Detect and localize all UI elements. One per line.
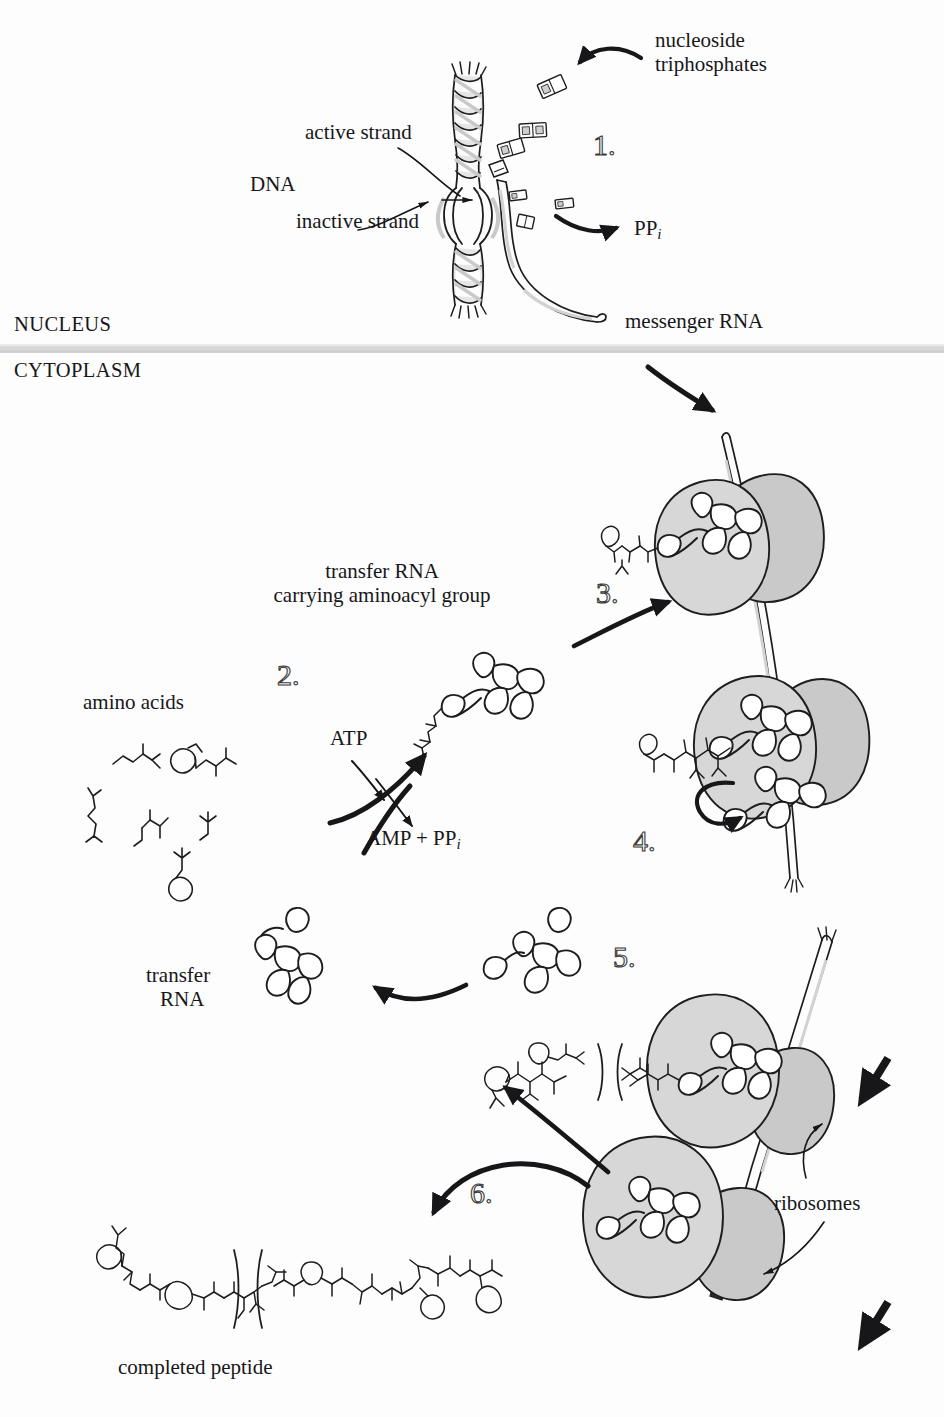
dna-double-helix bbox=[438, 62, 498, 318]
free-trna-molecule bbox=[255, 908, 322, 1004]
departing-trna-molecule bbox=[484, 908, 581, 993]
arrow-ribosome-direction-lower bbox=[862, 1302, 888, 1344]
label-pyrophosphate-subscript: i bbox=[657, 226, 661, 242]
charged-trna-molecule bbox=[414, 653, 544, 758]
arrow-ribosome-direction-upper bbox=[862, 1058, 888, 1100]
label-inactive-strand: inactive strand bbox=[296, 209, 419, 233]
arrow-step-6-down bbox=[434, 1164, 588, 1212]
peptide-chain-step-5 bbox=[485, 1043, 584, 1108]
label-pyrophosphate: PPi bbox=[634, 216, 662, 244]
label-amino-acids: amino acids bbox=[83, 690, 184, 714]
arrow-step-3 bbox=[574, 602, 668, 646]
nuclear-membrane-band bbox=[0, 344, 944, 353]
label-nucleoside-triphosphates-line1: nucleoside bbox=[655, 28, 767, 52]
bracket-pair-completed-peptide bbox=[234, 1250, 262, 1328]
peptide-fragment-right bbox=[274, 1256, 502, 1319]
label-transfer-rna-line2: RNA bbox=[160, 987, 210, 1011]
label-transfer-rna-aminoacyl-line2: carrying aminoacyl group bbox=[247, 583, 517, 607]
step-number-6: 6. bbox=[470, 1178, 493, 1208]
arrow-nucleoside-triphosphates bbox=[580, 49, 641, 62]
label-nucleoside-triphosphates: nucleoside triphosphates bbox=[655, 28, 767, 77]
label-atp: ATP bbox=[330, 726, 367, 750]
label-transfer-rna: transfer RNA bbox=[146, 963, 210, 1012]
label-ribosomes: ribosomes bbox=[774, 1191, 860, 1215]
label-transfer-rna-line1: transfer bbox=[146, 963, 210, 987]
nucleotide-at-fork bbox=[489, 160, 508, 177]
amino-acid-pool bbox=[86, 744, 236, 901]
ribosome-step-5 bbox=[630, 994, 834, 1154]
arrow-trna-release bbox=[376, 985, 466, 999]
label-pyrophosphate-text: PP bbox=[634, 216, 657, 240]
mrna-frayed-end-upper bbox=[785, 878, 803, 892]
label-transfer-rna-aminoacyl: transfer RNA carrying aminoacyl group bbox=[247, 559, 517, 608]
step-number-3: 3. bbox=[596, 578, 619, 608]
label-transfer-rna-aminoacyl-line1: transfer RNA bbox=[247, 559, 517, 583]
step-number-4: 4. bbox=[633, 826, 656, 856]
label-active-strand: active strand bbox=[305, 120, 412, 144]
figure-page: nucleoside triphosphates active strand D… bbox=[0, 0, 944, 1417]
ribosome-step-4 bbox=[640, 676, 870, 831]
arrow-step-6-up bbox=[506, 1088, 608, 1172]
bracket-pair-step-5 bbox=[598, 1044, 622, 1100]
messenger-rna-strand-nascent bbox=[497, 180, 606, 322]
label-nucleus: NUCLEUS bbox=[14, 313, 111, 337]
label-dna: DNA bbox=[250, 172, 296, 196]
mrna-frayed-end-lower bbox=[818, 927, 836, 941]
ribosome-step-3 bbox=[574, 474, 824, 646]
label-messenger-rna: messenger RNA bbox=[625, 309, 763, 333]
label-nucleoside-triphosphates-line2: triphosphates bbox=[655, 52, 767, 76]
label-cytoplasm: CYTOPLASM bbox=[14, 359, 141, 383]
step-number-5: 5. bbox=[613, 942, 636, 972]
step-number-1: 1. bbox=[593, 130, 616, 160]
arrow-pyrophosphate-release bbox=[556, 216, 616, 231]
label-completed-peptide: completed peptide bbox=[118, 1355, 273, 1379]
step-number-2: 2. bbox=[277, 660, 300, 690]
label-amp-ppi-subscript: i bbox=[456, 836, 460, 852]
label-amp-ppi-text: AMP + PP bbox=[366, 826, 456, 850]
label-amp-ppi: AMP + PPi bbox=[366, 826, 461, 854]
arrow-mrna-to-cytoplasm bbox=[648, 367, 712, 410]
arrow-atp-in bbox=[352, 761, 384, 800]
